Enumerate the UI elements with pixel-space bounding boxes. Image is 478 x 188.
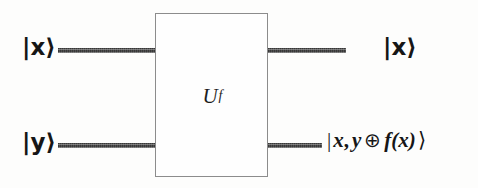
oracle-gate-box: Uf <box>155 13 268 177</box>
xor-operator-icon: ⊕ <box>364 129 381 151</box>
output-wire-bottom <box>266 143 322 148</box>
ket-variable-y: y <box>352 128 361 152</box>
ket-right-angle: ⟩ <box>418 128 426 152</box>
output-ket-label-top: |x⟩ <box>383 36 417 59</box>
input-wire-bottom <box>58 143 158 148</box>
ket-comma: , <box>344 128 349 152</box>
gate-label-base: U <box>202 84 217 109</box>
input-wire-top <box>58 48 158 53</box>
ket-left-bar: | <box>327 128 331 152</box>
quantum-circuit-figure: Uf |x⟩ |y⟩ |x⟩ |x,y⊕f(x)⟩ <box>0 0 478 188</box>
gate-label-subscript: f <box>218 88 222 104</box>
output-ket-label-bottom: |x,y⊕f(x)⟩ <box>327 130 426 151</box>
ket-variable-x: x <box>333 128 344 152</box>
output-wire-top <box>266 48 346 53</box>
input-ket-label-top: |x⟩ <box>22 36 56 59</box>
input-ket-label-bottom: |y⟩ <box>22 131 56 154</box>
ket-function-fx: f(x) <box>384 128 415 152</box>
oracle-gate-label: Uf <box>156 14 269 178</box>
